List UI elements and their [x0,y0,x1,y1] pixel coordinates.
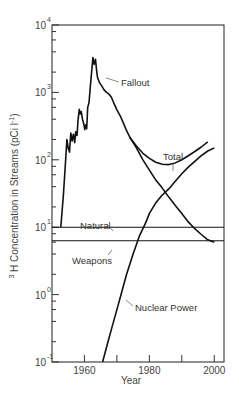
x-axis: 196019802000 [73,355,225,376]
label-total: Total [163,151,183,162]
tritium-concentration-chart: 10-1100101102103104 196019802000 Fallout… [0,0,239,402]
y-axis-title-text: 3 H Concentration in Streams (pCi l-1) [8,113,20,278]
label-leader-line [126,300,133,306]
series-lines [52,58,224,363]
series-nuclear-power [103,148,215,362]
y-tick-exponent: 0 [47,286,51,293]
x-tick-label: 1980 [138,365,161,376]
y-tick-label: 10 [35,290,47,301]
y-tick-label: 10 [35,20,47,31]
y-tick-exponent: 3 [47,83,51,90]
y-tick-exponent: 2 [47,151,51,158]
y-tick-exponent: -1 [47,353,53,360]
y-tick-exponent: 1 [47,218,51,225]
y-tick-exponent: 4 [47,16,51,23]
y-axis-title: 3 H Concentration in Streams (pCi l-1) [8,113,20,278]
y-tick-label: 10 [35,357,47,368]
y-tick-label: 10 [35,87,47,98]
y-axis: 10-1100101102103104 [35,16,59,368]
label-natural: Natural [80,220,111,231]
x-axis-title: Year [121,375,142,386]
label-leader-line [106,78,119,82]
series-labels: FalloutTotalNaturalWeaponsNuclear Power [72,77,197,313]
label-fallout: Fallout [121,77,150,88]
label-nuclear-power: Nuclear Power [135,302,197,313]
x-tick-label: 2000 [203,365,226,376]
x-tick-label: 1960 [73,365,96,376]
y-tick-label: 10 [35,155,47,166]
label-weapons: Weapons [72,255,112,266]
y-tick-label: 10 [35,222,47,233]
